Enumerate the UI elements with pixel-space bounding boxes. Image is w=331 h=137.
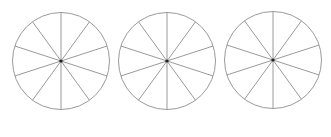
sector-divider-line: [138, 22, 167, 61]
sector-divider-line: [273, 21, 302, 60]
circle-group-2: [119, 13, 216, 110]
sector-circles-diagram: [0, 0, 331, 137]
sector-divider-line: [227, 45, 273, 60]
diagram-canvas: [0, 0, 331, 137]
sector-divider-line: [167, 61, 196, 100]
sector-divider-line: [32, 22, 61, 61]
sector-divider-line: [61, 61, 90, 100]
sector-divider-line: [121, 61, 167, 76]
sector-divider-line: [273, 60, 319, 75]
sector-divider-line: [244, 60, 273, 99]
center-dot: [271, 58, 274, 61]
sector-divider-line: [61, 61, 107, 76]
sector-divider-line: [273, 60, 302, 99]
sector-divider-line: [15, 61, 61, 76]
center-dot: [59, 59, 62, 62]
sector-divider-line: [244, 21, 273, 60]
center-dot: [165, 59, 168, 62]
sector-divider-line: [138, 61, 167, 100]
sector-divider-line: [167, 22, 196, 61]
sector-divider-line: [61, 22, 90, 61]
sector-divider-line: [121, 46, 167, 61]
sector-divider-line: [167, 61, 213, 76]
sector-divider-line: [227, 60, 273, 75]
sector-divider-line: [273, 45, 319, 60]
circle-group-3: [225, 12, 322, 109]
sector-divider-line: [61, 46, 107, 61]
sector-divider-line: [167, 46, 213, 61]
circle-group-1: [13, 13, 110, 110]
sector-divider-line: [32, 61, 61, 100]
sector-divider-line: [15, 46, 61, 61]
